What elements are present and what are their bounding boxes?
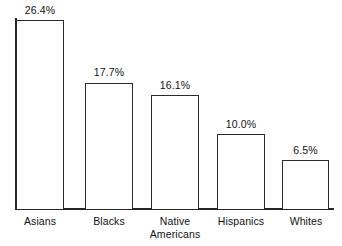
bar-value-hispanics: 10.0% <box>217 118 265 130</box>
category-label-line-2: Americans <box>141 228 209 241</box>
category-label-line-1: Hispanics <box>218 215 264 227</box>
bar-whites <box>282 160 329 209</box>
category-label-whites: Whites <box>272 215 340 228</box>
bar-chart: 26.4% Asians 17.7% Blacks 16.1% Native A… <box>0 0 342 246</box>
category-label-asians: Asians <box>6 215 74 228</box>
category-label-line-1: Native <box>160 215 190 227</box>
category-label-line-1: Whites <box>290 215 323 227</box>
category-label-hispanics: Hispanics <box>207 215 275 228</box>
bar-native-americans <box>151 95 199 209</box>
bar-value-asians: 26.4% <box>16 4 64 16</box>
bar-value-blacks: 17.7% <box>85 66 133 78</box>
bar-hispanics <box>217 134 265 209</box>
bar-value-whites: 6.5% <box>282 144 329 156</box>
bar-blacks <box>85 83 133 209</box>
bar-asians <box>16 20 64 209</box>
plot-area: 26.4% Asians 17.7% Blacks 16.1% Native A… <box>0 0 342 246</box>
category-label-native-americans: Native Americans <box>141 215 209 240</box>
category-label-line-1: Blacks <box>93 215 125 227</box>
bar-value-native-americans: 16.1% <box>151 79 199 91</box>
category-label-blacks: Blacks <box>75 215 143 228</box>
category-label-line-1: Asians <box>24 215 56 227</box>
